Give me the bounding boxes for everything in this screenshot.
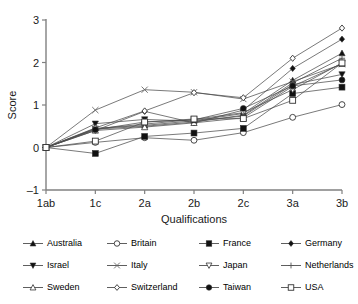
- legend-item-japan[interactable]: Japan: [198, 260, 280, 271]
- legend-label: France: [223, 238, 251, 248]
- marker-square-filled: [92, 151, 98, 157]
- marker-diamond-filled: [339, 36, 344, 42]
- marker-square-filled: [206, 240, 212, 246]
- marker-square-filled: [240, 125, 246, 131]
- marker-plus: [288, 262, 294, 268]
- legend-item-switzerland[interactable]: Switzerland: [106, 282, 198, 293]
- marker-square-open: [191, 116, 197, 122]
- legend-marker-britain-icon: [106, 238, 128, 249]
- legend-marker-taiwan-icon: [198, 282, 220, 293]
- y-tick-label: –1: [27, 184, 39, 196]
- legend-label: Germany: [305, 238, 342, 248]
- legend-marker-italy-icon: [106, 260, 128, 271]
- marker-square-open: [339, 60, 345, 66]
- marker-square-filled: [142, 134, 148, 140]
- legend-item-italy[interactable]: Italy: [106, 260, 198, 271]
- x-tick-label: 2c: [238, 197, 250, 209]
- legend-label: Taiwan: [223, 282, 251, 292]
- marker-square-filled: [339, 84, 345, 90]
- legend-item-israel[interactable]: Israel: [22, 260, 106, 271]
- legend-label: Australia: [47, 238, 82, 248]
- marker-diamond-open: [115, 284, 120, 290]
- marker-circle-open: [191, 137, 197, 143]
- legend-marker-usa-icon: [280, 282, 302, 293]
- marker-diamond-filled: [290, 65, 295, 71]
- marker-circle-filled: [339, 77, 345, 83]
- marker-circle-filled: [240, 105, 246, 111]
- legend-item-sweden[interactable]: Sweden: [22, 282, 106, 293]
- legend-label: Switzerland: [131, 282, 178, 292]
- marker-square-open: [240, 116, 246, 122]
- y-axis-title: Score: [6, 91, 18, 120]
- series-sweden: [43, 61, 345, 150]
- marker-square-open: [290, 97, 296, 103]
- y-tick-label: 0: [33, 142, 39, 154]
- legend-item-britain[interactable]: Britain: [106, 238, 198, 249]
- marker-circle-filled: [290, 83, 296, 89]
- marker-square-open: [142, 119, 148, 125]
- marker-diamond-open: [290, 55, 295, 61]
- legend-marker-israel-icon: [22, 260, 44, 271]
- legend-item-france[interactable]: France: [198, 238, 280, 249]
- x-tick-label: 3a: [287, 197, 300, 209]
- legend-item-germany[interactable]: Germany: [280, 238, 358, 249]
- marker-circle-open: [290, 114, 296, 120]
- legend-label: Britain: [131, 238, 157, 248]
- marker-diamond-filled: [289, 240, 294, 246]
- legend-item-taiwan[interactable]: Taiwan: [198, 282, 280, 293]
- legend-label: Italy: [131, 260, 148, 270]
- marker-square-open: [92, 138, 98, 144]
- x-tick-label: 1c: [90, 197, 102, 209]
- legend-label: Sweden: [47, 282, 80, 292]
- x-tick-label: 3b: [336, 197, 348, 209]
- chart-legend: AustraliaBritainFranceGermanyIsraelItaly…: [22, 232, 334, 298]
- legend-marker-germany-icon: [280, 238, 302, 249]
- legend-item-australia[interactable]: Australia: [22, 238, 106, 249]
- x-tick-label: 2a: [139, 197, 152, 209]
- marker-square-filled: [191, 130, 197, 136]
- legend-item-netherlands[interactable]: Netherlands: [280, 260, 358, 271]
- legend-item-usa[interactable]: USA: [280, 282, 358, 293]
- y-tick-label: 1: [33, 99, 39, 111]
- legend-marker-japan-icon: [198, 260, 220, 271]
- marker-square-open: [43, 145, 49, 151]
- legend-label: Israel: [47, 260, 69, 270]
- legend-marker-france-icon: [198, 238, 220, 249]
- y-tick-label: 3: [33, 14, 39, 26]
- marker-circle-open: [339, 102, 345, 108]
- marker-diamond-open: [241, 95, 246, 101]
- chart-plot-area: 3210–11ab1c2a2b2c3a3bQualificationsScore: [0, 0, 352, 226]
- legend-marker-netherlands-icon: [280, 260, 302, 271]
- y-tick-label: 2: [33, 57, 39, 69]
- x-tick-label: 1ab: [37, 197, 55, 209]
- marker-diamond-open: [142, 108, 147, 114]
- marker-circle-open: [114, 240, 120, 246]
- legend-marker-switzerland-icon: [106, 282, 128, 293]
- legend-label: USA: [305, 282, 324, 292]
- series-line-switzerland: [46, 28, 342, 147]
- line-chart-svg: 3210–11ab1c2a2b2c3a3bQualificationsScore: [0, 0, 352, 226]
- legend-label: Japan: [223, 260, 248, 270]
- marker-circle-filled: [92, 127, 98, 133]
- series-usa: [43, 60, 345, 150]
- marker-triangle-up-filled: [339, 50, 345, 56]
- marker-square-open: [288, 284, 294, 290]
- x-tick-label: 2b: [188, 197, 200, 209]
- legend-marker-australia-icon: [22, 238, 44, 249]
- legend-label: Netherlands: [305, 260, 354, 270]
- legend-marker-sweden-icon: [22, 282, 44, 293]
- marker-circle-filled: [206, 284, 212, 290]
- marker-cross-x: [92, 107, 98, 113]
- x-axis-title: Qualifications: [161, 213, 228, 225]
- marker-diamond-open: [339, 25, 344, 31]
